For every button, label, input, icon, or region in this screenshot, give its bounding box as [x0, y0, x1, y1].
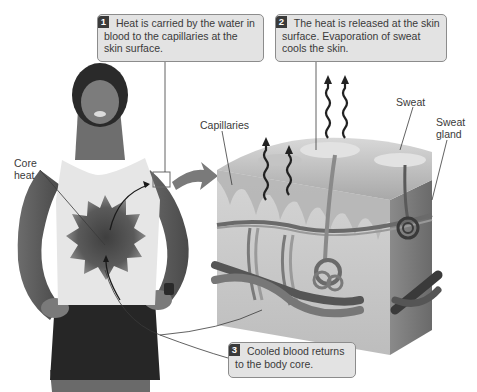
- step-3-text: Cooled blood returns to the body core.: [235, 345, 344, 370]
- step-3-callout: 3 Cooled blood returns to the body core.: [228, 342, 356, 378]
- step-1-text: Heat is carried by the water in blood to…: [104, 17, 255, 54]
- core-heat-label: Core heat: [14, 157, 50, 181]
- step-1-badge: 1: [98, 16, 109, 28]
- step-2-badge: 2: [276, 16, 287, 28]
- step-1-callout: 1 Heat is carried by the water in blood …: [97, 14, 264, 62]
- step-2-callout: 2 The heat is released at the skin surfa…: [275, 14, 447, 62]
- sweat-label: Sweat: [396, 96, 425, 108]
- runner-figure: [18, 63, 189, 392]
- sweat-gland-label: Sweat gland: [436, 116, 472, 140]
- zoom-arrow-icon: [172, 162, 218, 190]
- step-2-text: The heat is released at the skin surface…: [282, 17, 440, 54]
- capillaries-label: Capillaries: [200, 119, 249, 131]
- skin-cross-section: [215, 138, 438, 355]
- step-3-badge: 3: [229, 344, 240, 356]
